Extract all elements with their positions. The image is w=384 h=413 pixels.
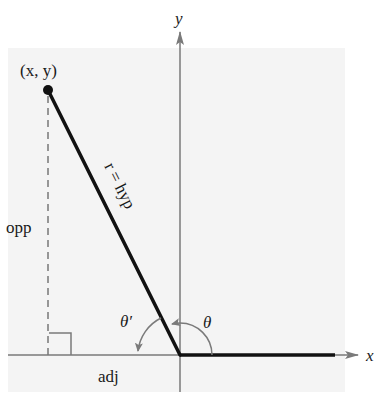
point-label: (x, y) [20, 61, 57, 80]
x-axis-label: x [365, 346, 374, 365]
reference-angle-diagram: x y (x, y) opp adj r = hyp θ θ′ [0, 0, 384, 413]
theta-prime-label: θ′ [120, 312, 132, 331]
theta-label: θ [203, 313, 211, 332]
opposite-label: opp [6, 218, 32, 237]
shaded-background [8, 48, 345, 392]
y-axis-label: y [173, 9, 183, 28]
adjacent-label: adj [98, 367, 119, 386]
point-dot [43, 85, 53, 95]
